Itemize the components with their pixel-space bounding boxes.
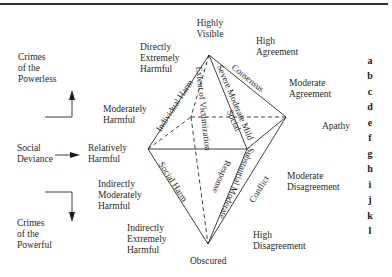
letter-d: d bbox=[365, 101, 375, 112]
letter-e: e bbox=[365, 117, 375, 128]
arrow-up-head bbox=[69, 90, 75, 100]
arrow-down-connector bbox=[45, 192, 72, 214]
label-high-disagreement: High Disagreement bbox=[253, 230, 306, 252]
label-crimes-of-the-powerful: Crimes of the Powerful bbox=[17, 218, 52, 251]
label-obscured: Obscured bbox=[190, 256, 226, 267]
label-social-deviance: Social Deviance bbox=[17, 143, 53, 165]
arrow-right-head bbox=[70, 152, 80, 158]
letter-c: c bbox=[365, 86, 375, 97]
label-indirectly-moderately-harmful: Indirectly Moderately Harmful bbox=[98, 179, 142, 212]
arrow-down-head bbox=[69, 212, 75, 222]
letter-g: g bbox=[365, 148, 375, 159]
letter-l: l bbox=[365, 225, 375, 236]
arrow-up-connector bbox=[45, 98, 72, 117]
label-high-agreement: High Agreement bbox=[256, 36, 298, 58]
letter-i: i bbox=[365, 179, 375, 190]
label-directly-extremely-harmful: Directly Extremely Harmful bbox=[140, 42, 180, 75]
label-moderately-harmful: Moderately Harmful bbox=[103, 104, 147, 126]
letter-a: a bbox=[365, 55, 375, 66]
letter-b: b bbox=[365, 70, 375, 81]
letter-f: f bbox=[365, 132, 375, 143]
letter-j: j bbox=[365, 194, 375, 205]
letter-k: k bbox=[365, 210, 375, 221]
label-relatively-harmful: Relatively Harmful bbox=[88, 143, 127, 165]
letter-h: h bbox=[365, 163, 375, 174]
label-apathy: Apathy bbox=[322, 121, 350, 132]
label-indirectly-extremely-harmful: Indirectly Extremely Harmful bbox=[127, 223, 167, 256]
label-crimes-of-the-powerless: Crimes of the Powerless bbox=[18, 52, 57, 85]
label-moderate-disagreement: Moderate Disagreement bbox=[287, 171, 340, 193]
label-highly-visible: Highly Visible bbox=[190, 18, 230, 40]
crime-prism-diagram bbox=[0, 0, 392, 277]
label-moderate-agreement: Moderate Agreement bbox=[289, 78, 331, 100]
